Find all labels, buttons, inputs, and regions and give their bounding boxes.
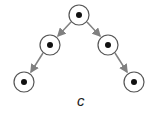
diagram-label: c <box>77 92 85 109</box>
node-right <box>98 35 118 55</box>
edge-root-right <box>87 22 100 36</box>
edge-root-left <box>58 22 71 36</box>
edge-left-leftleft <box>31 53 43 72</box>
node-left <box>40 35 60 55</box>
node-root <box>69 5 89 25</box>
edge-right-rightright <box>115 53 127 72</box>
node-right-right <box>124 72 144 92</box>
node-left-left <box>14 72 34 92</box>
